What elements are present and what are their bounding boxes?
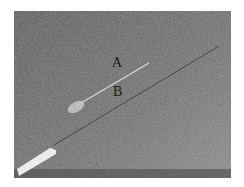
label-b: B [113, 84, 122, 100]
bottom-edge-shadow [14, 169, 231, 178]
label-a: A [112, 55, 122, 71]
photograph: A B [14, 11, 231, 178]
photo-illustration [14, 11, 231, 178]
